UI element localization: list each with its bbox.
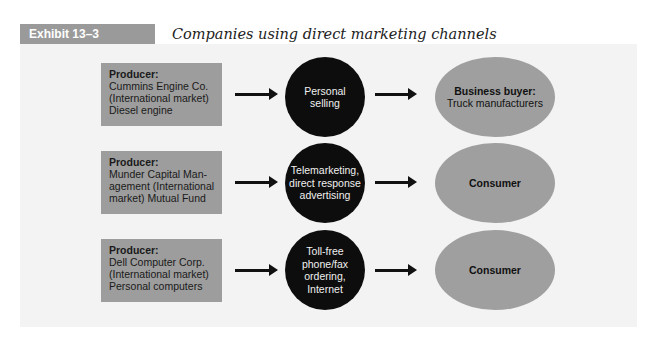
producer-text: Cummins Engine Co. (International market… bbox=[109, 80, 222, 116]
buyer-text: Truck manufacturers bbox=[447, 97, 543, 110]
channel-circle-toll-free: Toll-free phone/fax ordering, Internet bbox=[285, 230, 365, 310]
producer-text: Dell Computer Corp. (International marke… bbox=[109, 256, 222, 292]
buyer-ellipse-consumer: Consumer bbox=[435, 230, 555, 310]
exhibit-label: Exhibit 13–3 bbox=[20, 24, 155, 44]
buyer-heading: Consumer bbox=[469, 177, 521, 190]
producer-heading: Producer: bbox=[109, 68, 222, 80]
buyer-heading: Consumer bbox=[469, 264, 521, 277]
arrow-right-icon bbox=[235, 181, 272, 184]
buyer-ellipse-consumer: Consumer bbox=[435, 143, 555, 223]
arrow-right-icon bbox=[235, 269, 272, 272]
producer-box-dell: Producer: Dell Computer Corp. (Internati… bbox=[101, 239, 222, 302]
producer-box-munder: Producer: Munder Capital Man- agement (I… bbox=[101, 151, 222, 214]
exhibit-title: Companies using direct marketing channel… bbox=[172, 24, 497, 44]
channel-circle-telemarketing: Telemarketing, direct response advertisi… bbox=[285, 143, 365, 223]
producer-text: Munder Capital Man- agement (Internation… bbox=[109, 168, 222, 204]
producer-box-cummins: Producer: Cummins Engine Co. (Internatio… bbox=[101, 63, 222, 126]
channel-circle-personal-selling: Personal selling bbox=[285, 57, 365, 137]
arrow-right-icon bbox=[375, 269, 411, 272]
producer-heading: Producer: bbox=[109, 156, 222, 168]
arrow-right-icon bbox=[375, 93, 411, 96]
buyer-heading: Business buyer: bbox=[454, 85, 536, 98]
buyer-ellipse-business: Business buyer: Truck manufacturers bbox=[435, 57, 555, 137]
arrow-right-icon bbox=[375, 181, 411, 184]
producer-heading: Producer: bbox=[109, 244, 222, 256]
arrow-right-icon bbox=[235, 93, 272, 96]
